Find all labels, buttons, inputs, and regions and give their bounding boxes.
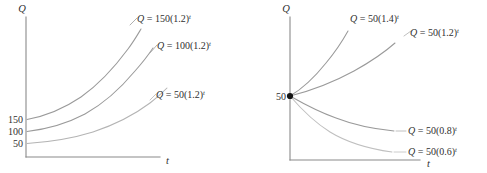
curve-label-q100-1p2: Q = 100(1.2)t xyxy=(157,40,211,52)
chart-panel-right: Q t 50 Q = 50(1.4)t Q = 50(1.2)t Q = 50(… xyxy=(244,0,487,173)
exponential-growth-decay-figure: Q t 150 100 50 Q = 150(1.2)t Q = 100(1.2… xyxy=(0,0,487,173)
curve-label-q150-1p2: Q = 150(1.2)t xyxy=(137,13,191,25)
y-axis-label-right: Q xyxy=(282,3,290,14)
y-tick-label-50: 50 xyxy=(13,138,23,149)
curve-label-q50-1p2-right: Q = 50(1.2)t xyxy=(410,27,459,39)
y-tick-label-100: 100 xyxy=(8,126,23,137)
curve-q150-1p2 xyxy=(27,29,141,120)
leader-line-q150 xyxy=(130,18,137,25)
curve-q50-1p4 xyxy=(290,31,348,96)
curve-q50-0p8 xyxy=(290,96,394,131)
curve-label-q50-0p8: Q = 50(0.8)t xyxy=(408,125,457,137)
curve-q50-1p2 xyxy=(27,88,167,144)
chart-panel-left: Q t 150 100 50 Q = 150(1.2)t Q = 100(1.2… xyxy=(0,0,244,173)
y-axis-label-left: Q xyxy=(18,3,26,14)
initial-value-dot xyxy=(287,93,293,99)
y-tick-label-150: 150 xyxy=(8,114,23,125)
x-axis-label-left: t xyxy=(166,155,170,166)
curve-q50-1p2-right xyxy=(290,43,395,96)
x-axis-label-right: t xyxy=(427,158,431,169)
y-tick-label-50-right: 50 xyxy=(276,91,286,102)
curve-label-q50-1p4: Q = 50(1.4)t xyxy=(350,13,399,25)
curve-label-q50-1p2: Q = 50(1.2)t xyxy=(156,89,205,101)
curve-label-q50-0p6: Q = 50(0.6)t xyxy=(408,146,457,158)
leader-line-q100 xyxy=(150,45,157,53)
